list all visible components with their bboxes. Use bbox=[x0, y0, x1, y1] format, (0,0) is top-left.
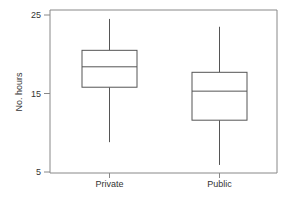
iqr-box bbox=[192, 72, 247, 120]
boxes bbox=[82, 19, 247, 165]
y-axis: 51525 bbox=[31, 10, 50, 177]
x-tick-label: Public bbox=[207, 179, 232, 189]
y-tick-label: 15 bbox=[31, 89, 41, 99]
y-axis-label: No. hours bbox=[14, 72, 24, 112]
box-plot-chart: 51525 PrivatePublic No. hours bbox=[0, 0, 292, 200]
x-axis: PrivatePublic bbox=[95, 173, 232, 189]
box-private bbox=[82, 19, 137, 142]
x-tick-label: Private bbox=[95, 179, 123, 189]
y-tick-label: 5 bbox=[36, 167, 41, 177]
box-public bbox=[192, 27, 247, 165]
y-tick-label: 25 bbox=[31, 10, 41, 20]
iqr-box bbox=[82, 50, 137, 87]
